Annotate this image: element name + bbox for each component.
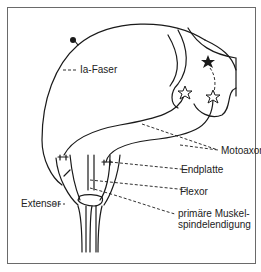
spindle-ending — [64, 170, 70, 176]
label-flexor: Flexor — [180, 186, 208, 197]
diagram-drawing — [0, 0, 261, 272]
leg-knee-bones — [56, 155, 120, 252]
label-endplatte: Endplatte — [181, 164, 223, 175]
sensory-receptor-dot — [70, 37, 76, 43]
label-spindle-1: primäre Muskel- — [178, 208, 250, 219]
label-extensor: Extensor — [21, 198, 60, 209]
leader-motoaxone-2 — [180, 145, 218, 150]
motoneuron-extensor — [178, 86, 192, 99]
label-ia-faser: Ia-Faser — [80, 64, 117, 75]
endplate-extensor — [58, 155, 68, 160]
leader-flexor — [90, 180, 188, 190]
label-spindle-2: spindelendigung — [178, 219, 251, 230]
label-motoaxone: Motoaxone — [221, 145, 261, 156]
reflex-arc-diagram: Ia-Faser Motoaxone Endplatte Extensor Fl… — [0, 0, 261, 272]
ia-fiber-path — [42, 24, 205, 185]
filled-star-neuron — [201, 55, 215, 68]
leader-motoaxone-1 — [142, 124, 218, 150]
leader-endplatte — [110, 162, 190, 170]
